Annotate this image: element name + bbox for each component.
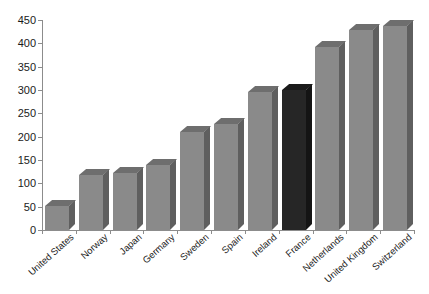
bar[interactable] [349, 24, 373, 230]
y-axis-tick-label: 200 [18, 131, 36, 142]
x-axis-tick-label: France [284, 232, 312, 259]
y-axis-tick [38, 207, 42, 208]
x-axis-tick-label: Spain [220, 232, 244, 255]
y-axis-tick-label: 300 [18, 85, 36, 96]
bar[interactable] [79, 169, 103, 230]
y-axis-tick [38, 183, 42, 184]
x-axis-tick-label: Sweden [179, 232, 211, 262]
y-axis-tick-label: 50 [24, 201, 36, 212]
bar[interactable] [180, 126, 204, 230]
bar-side-face [204, 126, 210, 230]
bar[interactable] [383, 20, 407, 230]
x-axis-tick-label: Germany [141, 232, 176, 265]
y-axis-tick-label: 450 [18, 15, 36, 26]
bar-front-face [180, 132, 204, 230]
bar[interactable] [45, 200, 69, 230]
y-axis-tick-label: 0 [30, 225, 36, 236]
bar-side-face [103, 169, 109, 230]
y-axis-tick [38, 160, 42, 161]
x-axis-tick-label: United States [27, 232, 76, 277]
y-axis-tick [38, 43, 42, 44]
y-axis-tick [38, 137, 42, 138]
bar[interactable] [214, 118, 238, 230]
bar[interactable] [315, 41, 339, 230]
bar-front-face [383, 26, 407, 230]
x-axis-tick [414, 230, 415, 234]
y-axis-tick [38, 67, 42, 68]
bar-side-face [339, 41, 345, 230]
x-axis-tick-label: Japan [117, 232, 143, 256]
bar[interactable] [248, 86, 272, 230]
bar-front-face [79, 175, 103, 230]
x-axis-tick-label: Ireland [250, 232, 278, 259]
y-axis-tick [38, 20, 42, 21]
y-axis-tick-label: 150 [18, 155, 36, 166]
x-axis-labels: United StatesNorwayJapanGermanySwedenSpa… [42, 232, 414, 294]
bar-chart: 050100150200250300350400450 United State… [0, 0, 429, 294]
bar-front-face [146, 165, 170, 230]
bar-front-face [282, 90, 306, 230]
bar-front-face [248, 92, 272, 230]
bar-side-face [272, 86, 278, 230]
bar-side-face [170, 159, 176, 230]
y-axis-tick-label: 400 [18, 38, 36, 49]
bar-side-face [238, 118, 244, 230]
y-axis-line [42, 20, 43, 231]
bar-front-face [315, 47, 339, 230]
bar-front-face [349, 30, 373, 230]
y-axis-tick-label: 100 [18, 178, 36, 189]
x-axis-tick-label: Norway [79, 232, 109, 261]
bar[interactable] [113, 167, 137, 230]
y-axis-tick [38, 113, 42, 114]
bar-side-face [137, 167, 143, 230]
bar-front-face [214, 124, 238, 230]
y-axis-tick-label: 350 [18, 61, 36, 72]
x-axis-line [42, 230, 414, 231]
y-axis-tick-label: 250 [18, 108, 36, 119]
bar-side-face [306, 84, 312, 230]
bar-front-face [113, 173, 137, 230]
bar-front-face [45, 206, 69, 230]
bar[interactable] [146, 159, 170, 230]
bar[interactable] [282, 84, 306, 230]
plot-area: 050100150200250300350400450 [42, 20, 414, 230]
bar-side-face [373, 24, 379, 230]
y-axis-tick [38, 90, 42, 91]
bar-side-face [407, 20, 413, 230]
